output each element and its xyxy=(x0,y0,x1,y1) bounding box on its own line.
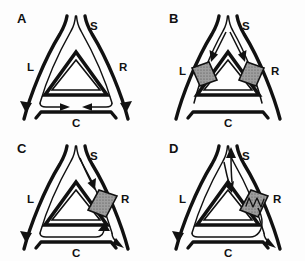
panel-letter-d: D xyxy=(169,141,178,156)
label-r-c: R xyxy=(121,193,130,205)
label-c-d: C xyxy=(224,247,232,259)
label-c-a: C xyxy=(72,117,80,129)
panel-letter-a: A xyxy=(17,11,27,26)
label-r-b: R xyxy=(271,65,280,77)
panel-c: C S L R C xyxy=(0,130,152,260)
label-s-c: S xyxy=(90,150,98,162)
label-c-b: C xyxy=(224,117,232,129)
panel-letter-c: C xyxy=(17,141,27,156)
figure-root: A S L R C xyxy=(0,0,305,261)
panel-a: A S L R C xyxy=(0,0,152,130)
label-l-a: L xyxy=(27,61,34,73)
label-r-a: R xyxy=(119,61,128,73)
panel-b: B S L R C xyxy=(152,0,304,130)
label-l-b: L xyxy=(179,65,186,77)
label-s-a: S xyxy=(90,20,98,32)
label-l-d: L xyxy=(179,193,186,205)
panel-letter-b: B xyxy=(169,11,178,26)
label-c-c: C xyxy=(72,247,80,259)
label-s-d: S xyxy=(242,150,250,162)
panel-d: D S L R C xyxy=(152,130,304,260)
label-l-c: L xyxy=(27,193,34,205)
label-s-b: S xyxy=(242,20,250,32)
label-r-d: R xyxy=(273,193,282,205)
